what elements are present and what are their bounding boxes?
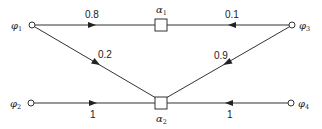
node-phi2 (28, 100, 34, 106)
label-phi2: φ2 (10, 98, 21, 111)
label-phi3: φ3 (299, 20, 310, 33)
arrow-left-icon (228, 22, 236, 28)
node-alpha1 (155, 19, 167, 31)
arrow-right-icon (88, 22, 96, 28)
label-phi4: φ4 (298, 98, 309, 111)
node-phi1 (29, 22, 35, 28)
node-alpha2 (155, 97, 167, 109)
weight-phi1-alpha1: 0.8 (85, 9, 99, 20)
weight-phi3-alpha2: 0.9 (214, 50, 228, 61)
label-alpha1: α1 (156, 4, 167, 17)
weight-phi2-alpha2: 1 (90, 109, 96, 120)
arrow-right-icon (89, 100, 97, 106)
node-phi4 (288, 100, 294, 106)
flow-diagram: φ1 φ3 φ2 φ4 α1 α2 0.8 0.1 0.2 0.9 1 1 (0, 0, 322, 129)
weight-phi4-alpha2: 1 (227, 109, 233, 120)
node-phi3 (289, 22, 295, 28)
label-phi1: φ1 (11, 20, 22, 33)
weight-phi3-alpha1: 0.1 (225, 9, 239, 20)
weight-phi1-alpha2: 0.2 (98, 49, 112, 60)
arrow-left-icon (225, 100, 233, 106)
label-alpha2: α2 (156, 113, 167, 126)
